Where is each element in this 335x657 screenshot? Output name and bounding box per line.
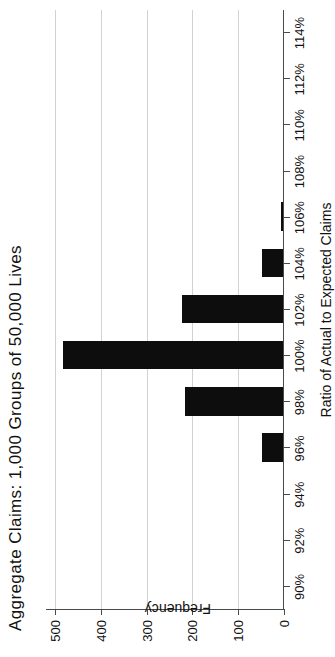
x-axis-tick-mark — [284, 447, 290, 448]
bar — [182, 295, 283, 324]
x-axis-title: Ratio of Actual to Expected Claims — [318, 10, 334, 610]
rotated-chart-canvas: Aggregate Claims: 1,000 Groups of 50,000… — [0, 0, 335, 657]
y-axis-tick-mark — [55, 609, 56, 615]
x-axis-tick-mark — [284, 586, 290, 587]
x-axis-tick-mark — [284, 263, 290, 264]
x-axis-tick-mark — [284, 494, 290, 495]
y-axis-tick-label: 400 — [93, 620, 108, 657]
x-axis-tick-label: 100% — [292, 340, 307, 373]
x-axis-tick-label: 112% — [292, 63, 307, 95]
x-axis-tick-label: 96% — [292, 435, 307, 461]
bar — [262, 433, 283, 462]
x-axis-tick-label: 114% — [292, 17, 307, 49]
y-axis-tick-label: 500 — [48, 620, 63, 657]
x-axis: Ratio of Actual to Expected Claims 90%92… — [284, 10, 334, 610]
bar — [185, 387, 283, 416]
x-axis-tick-label: 90% — [292, 574, 307, 600]
x-axis-tick-mark — [284, 217, 290, 218]
x-axis-tick-label: 108% — [292, 155, 307, 188]
x-axis-tick-mark — [284, 78, 290, 79]
x-axis-tick-label: 104% — [292, 247, 307, 280]
bar-series — [46, 10, 283, 609]
x-axis-tick-mark — [284, 32, 290, 33]
x-axis-tick-mark — [284, 355, 290, 356]
y-axis-title: Frequency — [145, 601, 211, 617]
x-axis-tick-label: 94% — [292, 482, 307, 508]
x-axis-tick-label: 106% — [292, 201, 307, 234]
x-axis-tick-mark — [284, 309, 290, 310]
y-axis-tick-mark — [101, 609, 102, 615]
x-axis-tick-mark — [284, 171, 290, 172]
y-axis-tick-label: 100 — [231, 620, 246, 657]
x-axis-tick-mark — [284, 401, 290, 402]
x-axis-tick-mark — [284, 540, 290, 541]
bar — [63, 341, 283, 370]
x-axis-tick-label: 110% — [292, 109, 307, 141]
chart-title: Aggregate Claims: 1,000 Groups of 50,000… — [6, 0, 26, 657]
y-axis-tick-mark — [238, 609, 239, 615]
y-axis-tick-label: 0 — [277, 620, 292, 657]
x-axis-tick-label: 98% — [292, 389, 307, 415]
x-axis-tick-label: 102% — [292, 293, 307, 326]
x-axis-tick-label: 92% — [292, 528, 307, 554]
bar — [281, 202, 283, 231]
bar — [262, 249, 283, 278]
y-axis-tick-label: 300 — [139, 620, 154, 657]
y-axis-tick-label: 200 — [185, 620, 200, 657]
x-axis-tick-mark — [284, 124, 290, 125]
chart-page: Aggregate Claims: 1,000 Groups of 50,000… — [0, 0, 335, 657]
plot-area: 0100200300400500 Frequency — [46, 10, 284, 610]
